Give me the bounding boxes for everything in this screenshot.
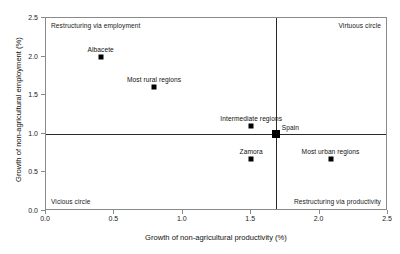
data-point-marker xyxy=(98,54,103,59)
y-axis-tick xyxy=(41,94,45,95)
vertical-reference-line xyxy=(276,18,277,209)
x-axis-title: Growth of non-agricultural productivity … xyxy=(45,233,387,242)
quadrant-label-bottom-right: Restructuring via productivity xyxy=(294,198,381,205)
x-axis-tick-label: 1.5 xyxy=(245,215,255,222)
data-point-label: Spain xyxy=(282,123,299,130)
plot-area: Restructuring via employment Virtuous ci… xyxy=(45,17,387,210)
data-point-marker xyxy=(272,130,280,138)
y-axis-tick-label: 1.0 xyxy=(28,129,38,136)
y-axis-tick xyxy=(41,133,45,134)
y-axis-tick xyxy=(41,210,45,211)
data-point-marker xyxy=(152,85,157,90)
y-axis-tick-label: 1.5 xyxy=(28,91,38,98)
data-point-marker xyxy=(249,124,254,129)
y-axis-tick-label: 2.5 xyxy=(28,14,38,21)
data-point-marker xyxy=(328,157,333,162)
x-axis-tick xyxy=(113,210,114,214)
data-point-label: Most rural regions xyxy=(127,76,181,83)
data-point-label: Zamora xyxy=(240,148,263,155)
x-axis-tick-label: 2.0 xyxy=(314,215,324,222)
data-point-label: Most urban regions xyxy=(302,148,360,155)
y-axis-tick xyxy=(41,56,45,57)
x-axis-tick xyxy=(387,210,388,214)
horizontal-reference-line xyxy=(46,134,386,135)
y-axis-tick-label: 2.0 xyxy=(28,52,38,59)
data-point-label: Albacete xyxy=(88,46,114,53)
y-axis-title: Growth of non-agricultural employment (%… xyxy=(14,10,23,210)
x-axis-tick xyxy=(250,210,251,214)
y-axis-tick-label: 0.0 xyxy=(28,207,38,214)
x-axis-tick xyxy=(182,210,183,214)
quadrant-label-top-right: Virtuous circle xyxy=(339,22,382,29)
x-axis-tick-label: 0.5 xyxy=(109,215,119,222)
scatter-chart: Restructuring via employment Virtuous ci… xyxy=(0,0,400,254)
x-axis-tick xyxy=(319,210,320,214)
y-axis-tick-label: 0.5 xyxy=(28,168,38,175)
x-axis-tick xyxy=(45,210,46,214)
quadrant-label-top-left: Restructuring via employment xyxy=(51,22,140,29)
data-point-marker xyxy=(249,157,254,162)
quadrant-label-bottom-left: Vicious circle xyxy=(51,198,90,205)
y-axis-tick xyxy=(41,17,45,18)
data-point-label: Intermediate regions xyxy=(220,115,282,122)
x-axis-tick-label: 2.5 xyxy=(382,215,392,222)
x-axis-tick-label: 1.0 xyxy=(177,215,187,222)
y-axis-tick xyxy=(41,171,45,172)
x-axis-tick-label: 0.0 xyxy=(40,215,50,222)
